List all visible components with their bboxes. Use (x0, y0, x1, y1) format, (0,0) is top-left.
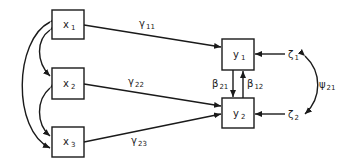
covariance-x1-x3 (22, 22, 50, 148)
beta12-label: β12 (247, 78, 263, 91)
path-diagram: x1 x2 x3 γ11 γ22 γ23 y1 y2 β21 β12 ζ1 ζ2… (0, 0, 352, 165)
gamma11-label: γ11 (139, 18, 155, 31)
path-gamma23 (84, 114, 221, 142)
covariance-x1-x2 (40, 30, 51, 76)
psi21-label: ψ21 (319, 79, 336, 92)
beta21-label: β21 (212, 78, 228, 91)
gamma22-label: γ22 (128, 76, 144, 89)
path-gamma22 (84, 84, 221, 106)
zeta2-label: ζ2 (288, 109, 299, 122)
covariance-psi21 (305, 56, 318, 114)
gamma23-label: γ23 (131, 135, 147, 148)
covariance-x2-x3 (40, 88, 51, 136)
zeta1-label: ζ1 (288, 49, 299, 62)
